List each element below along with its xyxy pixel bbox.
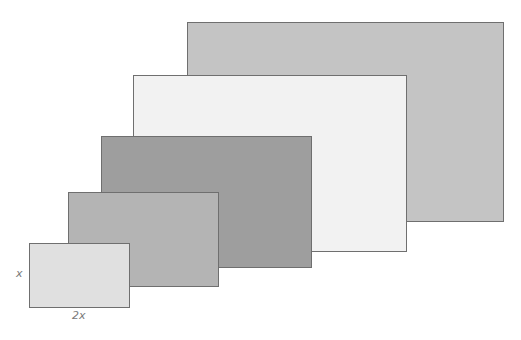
rect-smallest — [29, 243, 130, 308]
height-label: x — [16, 267, 23, 280]
width-label: 2x — [72, 309, 86, 322]
